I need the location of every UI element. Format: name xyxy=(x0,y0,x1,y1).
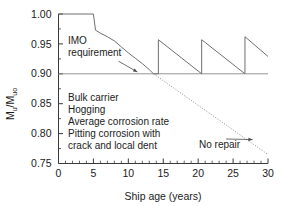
annotation-note-line-1: Bulk carrier xyxy=(68,92,119,103)
y-tick-label: 0.85 xyxy=(31,97,52,109)
y-tick-label: 0.75 xyxy=(31,157,52,169)
chart-container: 0.750.800.850.900.951.00 051015202530 Mu… xyxy=(0,0,281,206)
x-tick-label: 25 xyxy=(227,167,239,179)
y-axis-title-base2: M xyxy=(4,96,16,105)
y-tick-label: 1.00 xyxy=(31,8,52,20)
x-axis-title: Ship age (years) xyxy=(124,190,201,202)
chart-plot: 0.750.800.850.900.951.00 051015202530 Mu… xyxy=(0,0,281,206)
y-axis-title-sub2: uo xyxy=(11,88,18,96)
y-tick-label: 0.90 xyxy=(31,67,52,79)
annotation-note-line-2: Hogging xyxy=(68,104,105,115)
x-tick-label: 30 xyxy=(262,167,274,179)
annotation-imo-line-2: requirement xyxy=(68,47,122,58)
y-tick-label: 0.80 xyxy=(31,127,52,139)
annotation-note-line-3: Average corrosion rate xyxy=(68,116,169,127)
annotation-note-line-5: crack and local dent xyxy=(68,140,157,151)
annotation-imo-line-1: IMO xyxy=(68,35,87,46)
y-tick-label: 0.95 xyxy=(31,38,52,50)
x-tick-label: 0 xyxy=(56,167,62,179)
annotation-note-line-4: Pitting corrosion with xyxy=(68,128,160,139)
x-tick-label: 20 xyxy=(192,167,204,179)
annotation-no-repair: No repair xyxy=(199,139,241,150)
x-tick-label: 15 xyxy=(157,167,169,179)
x-tick-label: 5 xyxy=(90,167,96,179)
y-axis-title-base1: M xyxy=(4,111,16,120)
x-tick-label: 10 xyxy=(122,167,134,179)
